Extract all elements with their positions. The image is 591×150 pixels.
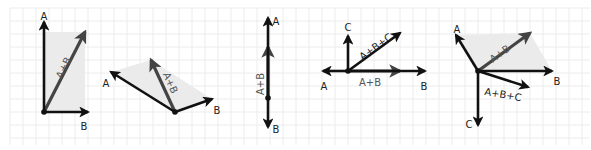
origin-point xyxy=(41,109,47,115)
vector-label-a: A xyxy=(273,16,280,27)
origin-point xyxy=(172,109,178,115)
origin-point xyxy=(475,68,481,74)
grid-background xyxy=(10,8,590,145)
vector-label-c: C xyxy=(345,22,352,33)
vector-addition-diagram: ABA+BABA+BABA+BABCA+BA+B+CABCA+BA+B+C xyxy=(0,0,591,150)
vector-label-b: B xyxy=(421,81,428,92)
panel-5: ABCA+BA+B+C xyxy=(454,24,561,130)
panel-2: ABA+B xyxy=(103,60,221,116)
vector-label-b: B xyxy=(214,105,221,116)
vector-label-a-plus-b: A+B xyxy=(359,77,381,88)
vector-label-b: B xyxy=(81,121,88,132)
panel-1: ABA+B xyxy=(41,11,88,132)
origin-point xyxy=(345,68,351,74)
vector-label-c: C xyxy=(466,119,473,130)
vector-label-a: A xyxy=(454,24,461,35)
vector-label-a: A xyxy=(103,78,110,89)
vector-label-a: A xyxy=(321,81,328,92)
vector-label-b: B xyxy=(554,76,561,87)
origin-point xyxy=(265,95,271,101)
vector-label-a: A xyxy=(41,11,48,22)
vector-label-b: B xyxy=(273,124,280,135)
vector-label-a-plus-b: A+B xyxy=(255,73,266,95)
